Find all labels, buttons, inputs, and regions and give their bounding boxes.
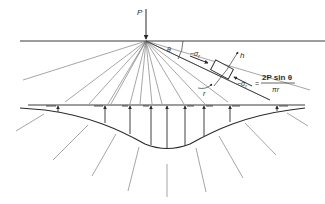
svg-text:2P sin θ: 2P sin θ [262, 73, 292, 82]
svg-text:=: = [255, 80, 259, 87]
stress-arrows [58, 106, 277, 149]
h-label: h [240, 51, 245, 60]
stress-distribution-curve [20, 108, 305, 149]
svg-text:πr: πr [272, 86, 280, 93]
stress-element [146, 41, 270, 100]
stress-diagram: P θ −σr h r −σr = 2P sin θ πr [0, 0, 325, 204]
radial-lines-lower [16, 113, 308, 197]
load-label: P [137, 8, 143, 17]
stress-formula: −σr = 2P sin θ πr [237, 73, 295, 93]
radius-label: r [203, 90, 206, 97]
svg-text:−σr: −σr [237, 80, 247, 89]
